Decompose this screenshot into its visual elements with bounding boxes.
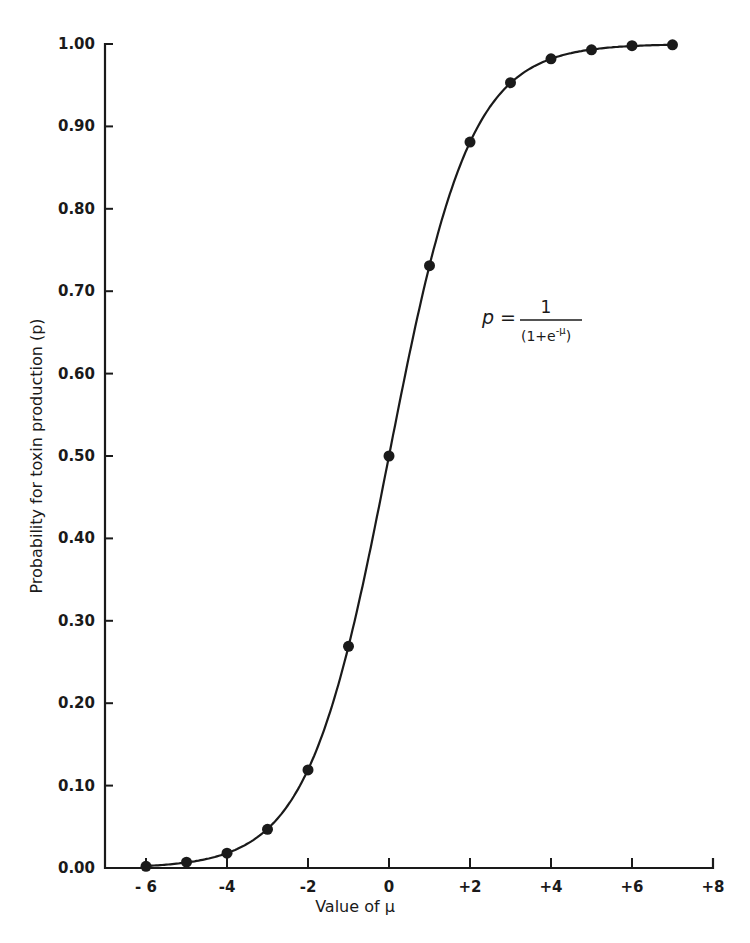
formula-lhs: p = bbox=[481, 306, 516, 328]
x-axis-title: Value of μ bbox=[315, 897, 395, 916]
logistic-curve bbox=[142, 45, 675, 867]
formula-annotation: p = 1 (1+e-μ) bbox=[481, 297, 582, 344]
data-point bbox=[505, 77, 516, 88]
x-tick-label: +2 bbox=[458, 878, 481, 896]
y-tick-label: 0.60 bbox=[58, 365, 95, 383]
y-tick-label: 0.90 bbox=[58, 117, 95, 135]
data-point bbox=[181, 857, 192, 868]
formula-denominator: (1+e-μ) bbox=[521, 325, 571, 344]
y-axis-title: Probability for toxin production (p) bbox=[27, 318, 46, 593]
data-point bbox=[424, 260, 435, 271]
data-point bbox=[465, 137, 476, 148]
x-tick-label: +8 bbox=[701, 878, 724, 896]
logistic-chart: 0.000.100.200.300.400.500.600.700.800.90… bbox=[0, 0, 750, 943]
data-points bbox=[141, 39, 679, 872]
x-tick-label: +4 bbox=[539, 878, 562, 896]
x-tick-label: -2 bbox=[300, 878, 317, 896]
y-tick-label: 0.50 bbox=[58, 447, 95, 465]
x-tick-label: +6 bbox=[620, 878, 643, 896]
data-point bbox=[343, 641, 354, 652]
y-tick-label: 0.30 bbox=[58, 612, 95, 630]
y-tick-label: 0.10 bbox=[58, 777, 95, 795]
data-point bbox=[627, 40, 638, 51]
y-tick-label: 0.40 bbox=[58, 529, 95, 547]
y-tick-label: 0.00 bbox=[58, 859, 95, 877]
x-axis-ticks: - 6-4-20+2+4+6+8 bbox=[135, 858, 724, 896]
data-point bbox=[141, 861, 152, 872]
y-tick-label: 0.70 bbox=[58, 282, 95, 300]
x-tick-label: 0 bbox=[384, 878, 394, 896]
data-point bbox=[667, 39, 678, 50]
x-tick-label: -4 bbox=[219, 878, 236, 896]
data-point bbox=[222, 848, 233, 859]
data-point bbox=[586, 44, 597, 55]
y-tick-label: 1.00 bbox=[58, 35, 95, 53]
data-point bbox=[384, 451, 395, 462]
x-tick-label: - 6 bbox=[135, 878, 157, 896]
data-point bbox=[262, 824, 273, 835]
axes bbox=[105, 44, 713, 868]
data-point bbox=[546, 53, 557, 64]
formula-numerator: 1 bbox=[541, 297, 552, 317]
y-tick-label: 0.20 bbox=[58, 694, 95, 712]
data-point bbox=[303, 764, 314, 775]
y-tick-label: 0.80 bbox=[58, 200, 95, 218]
